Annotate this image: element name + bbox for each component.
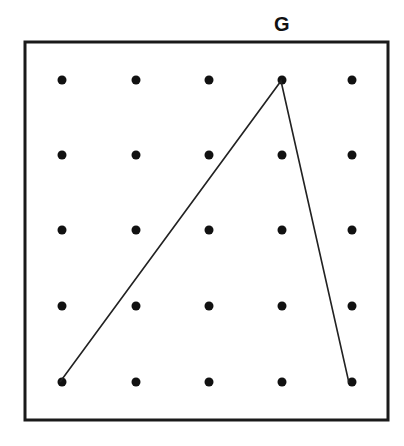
grid-dot [348,76,357,85]
grid-dot [58,226,67,235]
triangle-path [60,81,349,383]
grid-dot [132,226,141,235]
grid-dot [278,151,287,160]
vertex-label-g: G [274,13,290,36]
grid-dot [205,76,214,85]
dot-grid [58,76,357,387]
grid-dot [278,302,287,311]
grid-dot [205,226,214,235]
grid-dot [348,302,357,311]
grid-dot [348,151,357,160]
grid-dot [58,151,67,160]
grid-dot [278,378,287,387]
grid-dot [58,76,67,85]
grid-dot [205,378,214,387]
grid-dot [132,378,141,387]
grid-dot [58,302,67,311]
grid-dot [205,151,214,160]
dot-grid-figure [0,0,404,446]
grid-dot [278,226,287,235]
grid-dot [132,302,141,311]
grid-dot [132,151,141,160]
grid-dot [205,302,214,311]
grid-dot [132,76,141,85]
geoboard-diagram: G [0,0,404,446]
grid-dot [348,226,357,235]
